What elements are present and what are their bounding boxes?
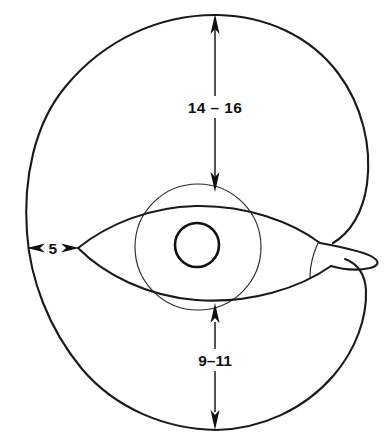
top-dimension-label: 14 – 16 bbox=[188, 99, 243, 116]
protoconch-circle bbox=[175, 223, 219, 267]
diagram-canvas: 14 – 16 9–11 5 bbox=[0, 0, 387, 441]
bottom-dimension-arrow-up-icon bbox=[211, 303, 220, 323]
aperture-rostrum-tip bbox=[320, 243, 377, 269]
aperture-upper-edge bbox=[78, 206, 320, 248]
bottom-dimension-arrow-down-icon bbox=[211, 410, 220, 430]
aperture-lower-edge bbox=[78, 248, 331, 301]
outer-shell-lower-arc bbox=[216, 259, 366, 430]
bottom-dimension-label: 9–11 bbox=[198, 352, 232, 369]
left-dimension-label: 5 bbox=[48, 240, 57, 257]
ammonite-diagram: 14 – 16 9–11 5 bbox=[0, 0, 387, 441]
inner-whorl-trailing-arc bbox=[310, 243, 318, 277]
left-dimension-arrow-right-icon bbox=[61, 244, 79, 253]
